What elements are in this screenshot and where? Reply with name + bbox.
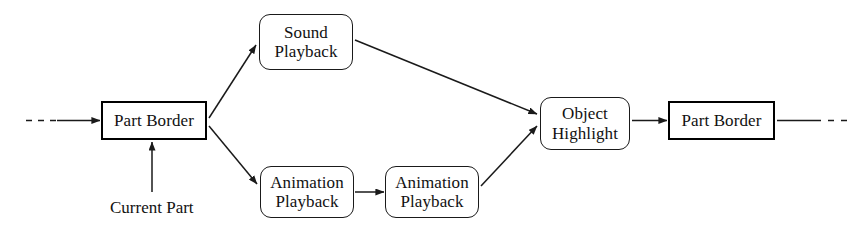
node-part-border-left[interactable]: Part Border	[101, 101, 207, 140]
node-label-line-2: Playback	[400, 192, 463, 211]
node-label-line-2: Playback	[274, 42, 337, 61]
diagram-canvas: Part Border Sound Playback Animation Pla…	[0, 0, 863, 235]
node-label-line-2: Playback	[275, 192, 338, 211]
node-part-border-right[interactable]: Part Border	[668, 101, 775, 140]
node-sound-playback[interactable]: Sound Playback	[259, 14, 353, 70]
node-label-line-1: Animation	[270, 173, 344, 192]
node-animation-playback-1[interactable]: Animation Playback	[260, 166, 354, 218]
edge-sound-to-object-highlight	[355, 40, 537, 114]
node-object-highlight[interactable]: Object Highlight	[540, 97, 630, 150]
node-label-line-1: Object	[562, 104, 608, 123]
node-label: Part Border	[682, 111, 762, 130]
edge-animation2-to-object-highlight	[481, 126, 537, 186]
node-animation-playback-2[interactable]: Animation Playback	[385, 166, 479, 218]
edge-part-border-to-animation1	[209, 126, 257, 184]
node-label-line-2: Highlight	[552, 124, 618, 143]
label-current-part: Current Part	[110, 198, 194, 218]
node-label-line-1: Animation	[395, 173, 469, 192]
node-label-line-1: Sound	[284, 23, 328, 42]
node-label: Part Border	[114, 111, 194, 130]
edge-part-border-to-sound	[209, 45, 256, 118]
